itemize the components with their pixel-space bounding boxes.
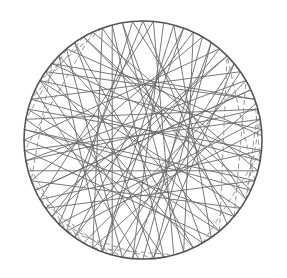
solid-chord [46, 181, 255, 209]
solid-chord [40, 22, 153, 200]
solid-chord [46, 72, 255, 100]
solid-chords [24, 21, 262, 259]
solid-chord [35, 90, 251, 191]
solid-chord [59, 56, 102, 252]
dashed-chord [227, 56, 255, 181]
dashed-chord [26, 49, 67, 120]
solid-chord [112, 64, 234, 255]
solid-chord [26, 109, 258, 161]
chord-circle-diagram [0, 0, 287, 278]
solid-chord [112, 25, 164, 257]
